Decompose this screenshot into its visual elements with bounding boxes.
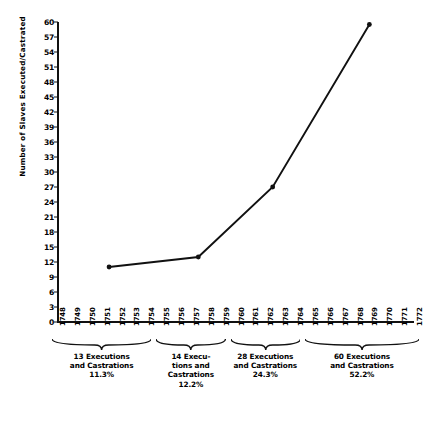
y-tick-label: 24 xyxy=(35,198,54,207)
plot-area: 60575451484542393633302724211815129630 1… xyxy=(57,22,414,322)
period-caption: 13 Executionsand Castrations11.3% xyxy=(55,352,149,380)
x-tick-label-text: 1772 xyxy=(416,307,424,326)
y-tick-label: 42 xyxy=(35,108,54,117)
period-caption-line: 13 Executions xyxy=(55,352,149,361)
y-tick-label: 6 xyxy=(35,288,54,297)
period-caption-line: and Castrations xyxy=(55,361,149,370)
period-caption-line: 12.2% xyxy=(144,380,238,389)
series-polyline xyxy=(109,25,369,268)
y-tick-label: 39 xyxy=(35,123,54,132)
period-brace xyxy=(52,336,151,349)
period-caption: 28 Executionsand Castrations24.3% xyxy=(218,352,312,380)
period-caption-line: 28 Executions xyxy=(218,352,312,361)
period-caption-line: and Castrations xyxy=(218,361,312,370)
y-tick-label: 0 xyxy=(35,318,54,327)
y-tick-label: 36 xyxy=(35,138,54,147)
y-tick-label: 48 xyxy=(35,78,54,87)
period-caption: 60 Executionsand Castrations52.2% xyxy=(315,352,409,380)
data-point-marker xyxy=(107,265,112,270)
y-tick-label: 45 xyxy=(35,93,54,102)
y-tick-label: 15 xyxy=(35,243,54,252)
y-tick-label: 57 xyxy=(35,33,54,42)
y-tick-label: 21 xyxy=(35,213,54,222)
y-tick-label: 30 xyxy=(35,168,54,177)
period-caption-line: and Castrations xyxy=(315,361,409,370)
data-point-marker xyxy=(270,185,275,190)
brace-path xyxy=(156,339,226,350)
y-tick-label: 12 xyxy=(35,258,54,267)
brace-path xyxy=(52,339,151,350)
brace-path xyxy=(305,339,419,350)
y-tick-label: 9 xyxy=(35,273,54,282)
period-caption-line: 11.3% xyxy=(55,370,149,379)
y-tick-label: 18 xyxy=(35,228,54,237)
chart-figure: Number of Slaves Executed/Castrated 6057… xyxy=(0,0,437,443)
y-tick-label: 60 xyxy=(35,18,54,27)
y-tick-label: 3 xyxy=(35,303,54,312)
y-tick-label: 27 xyxy=(35,183,54,192)
y-axis-title: Number of Slaves Executed/Castrated xyxy=(18,0,27,197)
data-point-marker xyxy=(196,255,201,260)
y-tick-label: 51 xyxy=(35,63,54,72)
data-series-line xyxy=(57,22,414,323)
period-brace xyxy=(305,336,419,349)
period-caption-line: 60 Executions xyxy=(315,352,409,361)
y-tick-label: 54 xyxy=(35,48,54,57)
period-brace xyxy=(231,336,301,349)
brace-path xyxy=(231,339,301,350)
period-caption-line: 52.2% xyxy=(315,370,409,379)
data-point-marker xyxy=(367,22,372,27)
y-tick-label: 33 xyxy=(35,153,54,162)
period-brace xyxy=(156,336,226,349)
period-caption-line: 24.3% xyxy=(218,370,312,379)
